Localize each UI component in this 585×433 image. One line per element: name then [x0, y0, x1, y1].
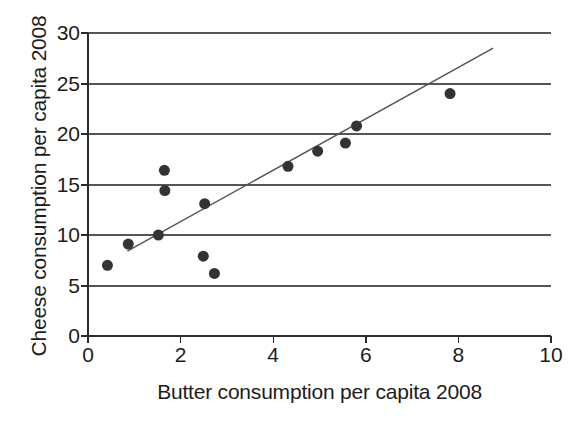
data-point — [351, 120, 362, 131]
x-axis-ticks — [88, 336, 551, 343]
scatter-plot-figure: Cheese consumption per capita 2008 Butte… — [0, 0, 585, 433]
data-point — [283, 161, 294, 172]
data-point — [153, 230, 164, 241]
data-point — [209, 268, 220, 279]
y-axis-ticks — [81, 33, 88, 336]
data-point — [445, 88, 456, 99]
plot-area — [0, 0, 585, 433]
data-point — [102, 260, 113, 271]
data-point — [198, 251, 209, 262]
data-point — [312, 146, 323, 157]
data-point — [159, 185, 170, 196]
data-point — [159, 165, 170, 176]
data-point — [199, 198, 210, 209]
trendline — [127, 48, 493, 251]
grid-lines — [88, 33, 551, 286]
data-points-group — [102, 88, 456, 279]
data-point — [340, 138, 351, 149]
data-point — [123, 239, 134, 250]
